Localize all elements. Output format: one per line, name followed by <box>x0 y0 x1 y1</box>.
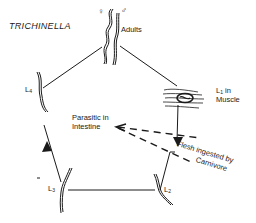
muscle-label: Muscle <box>216 96 240 105</box>
l3-subscript: 3 <box>52 187 55 193</box>
l4-label: L4 <box>25 86 32 96</box>
l4-larva-icon <box>37 72 48 112</box>
adults-label: Adults <box>121 26 142 35</box>
l2-label: L2 <box>164 186 171 196</box>
connector-l1-l2 <box>177 105 178 142</box>
intestine-label-line2: Intestine <box>72 123 100 132</box>
adult-worms-icon <box>104 9 119 65</box>
l1-in-text: in <box>223 86 231 95</box>
connector-adults-l1 <box>120 46 177 86</box>
connector-l3-l4 <box>44 125 61 182</box>
l4-subscript: 4 <box>29 88 32 94</box>
diagram-title: TRICHINELLA <box>9 22 71 31</box>
female-symbol: ♀ <box>98 8 104 17</box>
l3-label: L3 <box>48 185 55 195</box>
dashed-line-upper <box>118 127 200 138</box>
connector-l4-adults <box>43 47 102 88</box>
muscle-cyst-icon <box>163 89 204 108</box>
trichinella-life-cycle-diagram: TRICHINELLA ♀ ♂ Adults L1 in Muscle L2 L… <box>0 0 256 223</box>
male-symbol: ♂ <box>121 7 127 16</box>
l2-subscript: 2 <box>168 188 171 194</box>
